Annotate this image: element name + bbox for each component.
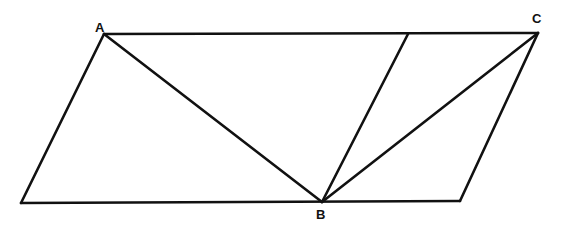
- geometry-diagram: A C B: [0, 0, 563, 232]
- left-side: [21, 34, 104, 203]
- segment-AB: [104, 34, 322, 202]
- label-C: C: [532, 11, 542, 26]
- segments-group: [21, 33, 538, 203]
- bottom-side: [21, 201, 460, 203]
- segment-BT: [322, 34, 408, 202]
- label-A: A: [95, 20, 105, 35]
- segment-BC: [322, 33, 538, 202]
- labels-group: A C B: [95, 11, 542, 222]
- top-side: [104, 33, 538, 34]
- label-B: B: [316, 207, 325, 222]
- right-side: [460, 33, 538, 201]
